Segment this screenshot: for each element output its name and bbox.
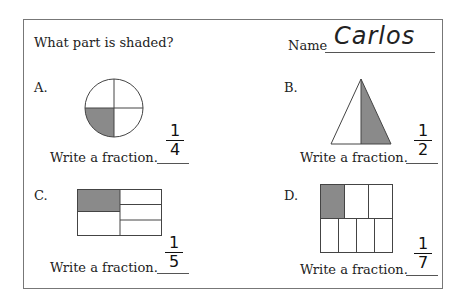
- problem-b-answer-line: [406, 163, 438, 164]
- numerator: 1: [169, 233, 179, 252]
- rectangle-fifths-icon: [77, 189, 163, 237]
- problem-a-answer-line: [157, 163, 189, 164]
- numerator: 1: [418, 234, 428, 253]
- problem-b-letter: B.: [284, 80, 298, 95]
- problem-a-prompt: Write a fraction.: [50, 150, 158, 165]
- denominator: 2: [418, 140, 428, 159]
- problem-c-letter: C.: [34, 188, 48, 203]
- name-field[interactable]: Carlos: [334, 22, 415, 50]
- name-label: Name: [288, 38, 327, 53]
- problem-a-answer[interactable]: 1 4: [160, 123, 190, 158]
- problem-c-answer-line: [157, 273, 189, 274]
- problem-d-answer[interactable]: 1 7: [408, 236, 438, 271]
- numerator: 1: [170, 121, 180, 140]
- problem-c-prompt: Write a fraction.: [50, 260, 158, 275]
- problem-a-letter: A.: [34, 80, 48, 95]
- worksheet-title: What part is shaded?: [34, 35, 174, 50]
- problem-b-answer[interactable]: 1 2: [408, 123, 438, 158]
- triangle-halves-icon: [330, 78, 392, 146]
- rectangle-sevenths-icon: [320, 184, 394, 254]
- problem-d-letter: D.: [284, 188, 298, 203]
- denominator: 5: [169, 252, 179, 271]
- denominator: 7: [418, 253, 428, 272]
- numerator: 1: [418, 121, 428, 140]
- problem-c-answer[interactable]: 1 5: [159, 235, 189, 270]
- name-line: [325, 52, 435, 53]
- problem-b-prompt: Write a fraction.: [300, 150, 408, 165]
- problem-d-prompt: Write a fraction.: [300, 262, 408, 277]
- circle-quarters-icon: [84, 78, 144, 138]
- denominator: 4: [170, 140, 180, 159]
- problem-d-answer-line: [406, 275, 438, 276]
